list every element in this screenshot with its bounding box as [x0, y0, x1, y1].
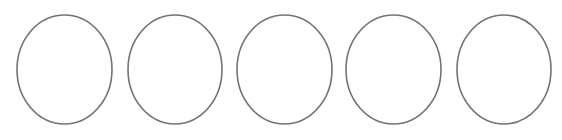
ellipse-2: [128, 15, 222, 124]
ellipse-5: [457, 15, 551, 124]
ellipse-3: [237, 15, 332, 124]
ellipse-1: [17, 15, 112, 124]
diagram-canvas: [0, 0, 562, 140]
ellipse-4: [346, 15, 441, 124]
